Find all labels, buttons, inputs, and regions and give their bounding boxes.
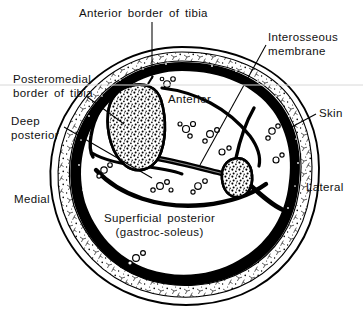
label-medial: Medial [14,193,50,207]
label-anterior-border-of-tibia: Anterior border of tibia [79,7,208,21]
label-superficial-line1: Superficial posterior [104,212,215,224]
label-interosseous-line1: Interosseous [268,31,338,43]
label-posteromedial-line1: Posteromedial [13,73,91,85]
label-superficial-posterior: Superficial posterior (gastroc-soleus) [104,212,215,239]
label-deep-posterior-line1: Deep [11,115,40,127]
label-deep-posterior-line2: posterior [11,129,59,141]
label-posteromedial-line2: border of tibia [13,87,93,99]
label-posteromedial-border-of-tibia: Posteromedial border of tibia [13,73,93,100]
label-superficial-line2: (gastroc-soleus) [104,226,215,240]
label-deep-posterior: Deep posterior [11,115,59,142]
anatomy-figure: Anterior border of tibia Interosseous me… [0,0,363,316]
label-anterior-compartment: Anterior [168,93,211,107]
label-skin: Skin [319,107,343,121]
label-interosseous-membrane: Interosseous membrane [268,31,338,58]
label-interosseous-line2: membrane [268,45,326,57]
label-lateral: Lateral [306,181,344,195]
